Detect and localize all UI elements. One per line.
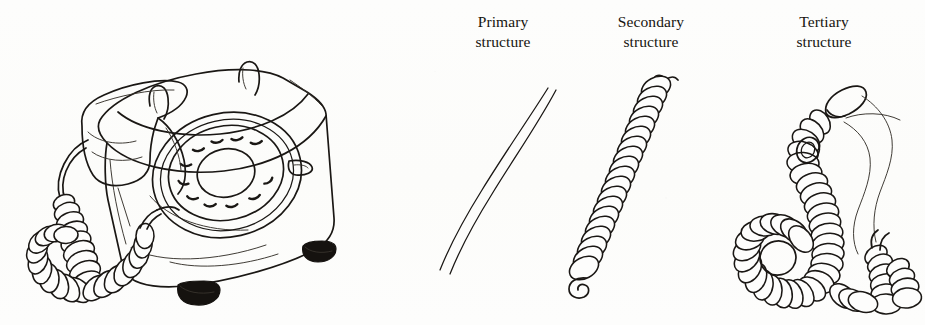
protein-structure-telephone-figure: Primary structure Secondary structure Te… (0, 0, 925, 325)
label-secondary-structure: Secondary structure (585, 12, 717, 53)
label-primary-structure: Primary structure (448, 12, 558, 53)
label-tertiary-structure: Tertiary structure (765, 12, 883, 53)
tertiary-coil-bottom-loop (729, 210, 819, 311)
